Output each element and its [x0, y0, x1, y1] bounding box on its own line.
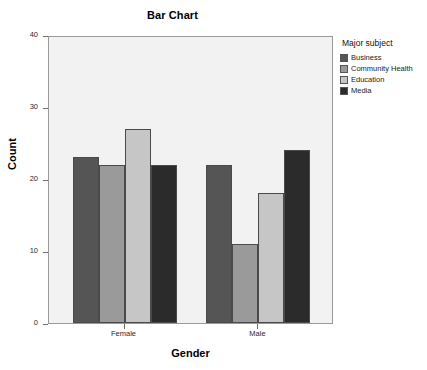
chart-title: Bar Chart	[0, 9, 345, 21]
legend-swatch-icon	[340, 87, 348, 95]
y-axis-tick-mark	[43, 108, 48, 109]
legend-item: Community Health	[340, 64, 427, 74]
x-axis-tick-label: Male	[217, 329, 297, 338]
legend-item-label: Community Health	[351, 64, 413, 74]
y-axis-tick-label: 40	[30, 30, 38, 39]
bar	[125, 129, 151, 323]
plot-inner	[49, 37, 332, 323]
legend-title: Major subject	[342, 38, 427, 48]
x-axis-tick-label: Female	[84, 329, 164, 338]
bar	[99, 165, 125, 323]
bar	[206, 165, 232, 323]
bar	[232, 244, 258, 323]
legend-item-label: Education	[351, 75, 384, 85]
y-axis-tick-label: 30	[30, 102, 38, 111]
y-axis-tick-mark	[43, 252, 48, 253]
legend: Major subject BusinessCommunity HealthEd…	[340, 38, 427, 97]
legend-swatch-icon	[340, 65, 348, 73]
legend-items: BusinessCommunity HealthEducationMedia	[340, 53, 427, 96]
legend-swatch-icon	[340, 54, 348, 62]
legend-item-label: Business	[351, 53, 381, 63]
bar	[73, 157, 99, 323]
x-axis-title: Gender	[48, 347, 333, 359]
y-axis-title: Count	[6, 114, 18, 194]
legend-item: Education	[340, 75, 427, 85]
y-axis-tick-label: 10	[30, 246, 38, 255]
legend-item-label: Media	[351, 86, 371, 96]
bar	[284, 150, 310, 323]
bar	[258, 193, 284, 323]
legend-item: Media	[340, 86, 427, 96]
plot-area	[48, 36, 333, 324]
y-axis-tick-mark	[43, 180, 48, 181]
bar-chart: Bar Chart Count 010203040 FemaleMale Gen…	[0, 0, 427, 370]
legend-swatch-icon	[340, 76, 348, 84]
legend-item: Business	[340, 53, 427, 63]
bar	[151, 165, 177, 323]
y-axis-tick-label: 20	[30, 174, 38, 183]
y-axis-tick-mark	[43, 36, 48, 37]
y-axis-tick-mark	[43, 324, 48, 325]
y-axis-tick-label: 0	[34, 318, 38, 327]
